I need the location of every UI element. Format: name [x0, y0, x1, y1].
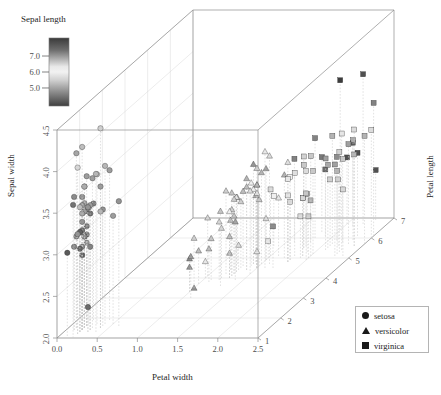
data-point	[373, 168, 378, 173]
data-point	[70, 202, 75, 207]
data-point	[336, 177, 341, 182]
data-point	[308, 154, 313, 159]
x-tick-label: 1.0	[132, 344, 143, 354]
x-axis-title: Petal width	[152, 372, 193, 382]
y-tick-label: 3.5	[41, 209, 51, 220]
data-point	[223, 188, 229, 193]
data-point	[337, 150, 342, 155]
data-point	[350, 138, 355, 143]
data-point	[371, 100, 376, 105]
data-point	[71, 194, 76, 199]
data-point	[268, 187, 273, 192]
data-point	[271, 194, 276, 199]
z-tick-label: 1	[265, 336, 269, 346]
data-point	[340, 187, 345, 192]
data-point	[90, 176, 95, 181]
data-point	[262, 148, 268, 153]
x-tick-label: 0.0	[52, 344, 63, 354]
colorbar-tick-label: 6.0	[29, 67, 40, 77]
data-point	[98, 209, 103, 214]
colorbar-title: Sepal length	[21, 14, 66, 24]
data-point	[266, 239, 271, 244]
data-point	[334, 154, 339, 159]
data-point	[79, 144, 84, 149]
data-point	[191, 235, 197, 240]
data-point	[87, 244, 92, 249]
data-point	[216, 219, 222, 224]
data-point	[217, 208, 223, 213]
data-point	[285, 176, 290, 181]
data-point	[254, 182, 260, 187]
data-point	[352, 127, 357, 132]
x-tick-label: 2.5	[253, 344, 264, 354]
data-point	[65, 250, 70, 255]
data-point	[250, 161, 256, 166]
data-point	[303, 169, 308, 174]
data-point	[79, 219, 84, 224]
colorbar-tick-label: 7.0	[29, 51, 40, 61]
colorbar-tick-label: 5.0	[29, 83, 40, 93]
legend-label-versicolor: versicolor	[375, 326, 409, 336]
data-point	[292, 156, 297, 161]
x-tick-label: 2.0	[212, 344, 223, 354]
z-tick-label: 7	[401, 216, 405, 226]
data-point	[75, 231, 80, 236]
square-marker-icon	[362, 342, 369, 349]
data-point	[263, 165, 269, 170]
data-point	[346, 142, 351, 147]
data-point	[84, 174, 89, 179]
z-tick-label: 2	[288, 316, 292, 326]
legend: setosa versicolor virginica	[355, 306, 429, 353]
circle-marker-icon	[362, 312, 369, 319]
data-point	[85, 304, 90, 309]
data-point	[271, 224, 276, 229]
data-point	[85, 205, 90, 210]
data-point	[332, 162, 337, 167]
data-point	[298, 214, 303, 219]
data-point	[75, 165, 80, 170]
data-point	[304, 191, 309, 196]
data-point	[369, 127, 374, 132]
data-point	[93, 171, 98, 176]
x-tick-label: 0.5	[92, 344, 103, 354]
data-point	[107, 168, 112, 173]
data-point	[306, 214, 311, 219]
data-point	[335, 168, 340, 173]
z-tick-label: 6	[378, 236, 382, 246]
data-point	[82, 184, 87, 189]
data-point	[328, 177, 333, 182]
data-point	[77, 205, 82, 210]
z-axis-title: Petal length	[425, 155, 435, 198]
data-point	[301, 154, 306, 159]
data-point	[98, 184, 103, 189]
data-point	[352, 152, 357, 157]
y-axis-title: Sepal width	[6, 154, 16, 197]
triangle-marker-icon	[362, 327, 370, 334]
data-point	[361, 72, 366, 77]
data-point	[205, 215, 211, 220]
data-point	[285, 159, 291, 164]
colorbar	[49, 38, 69, 106]
y-tick-label: 4.5	[41, 126, 51, 137]
data-point	[362, 133, 367, 138]
data-point	[330, 133, 335, 138]
data-point	[188, 253, 194, 258]
data-point	[98, 126, 103, 131]
y-tick-label: 3.0	[41, 250, 51, 261]
data-point	[339, 131, 344, 136]
data-point	[311, 168, 316, 173]
data-point	[110, 213, 115, 218]
legend-item-setosa: setosa	[362, 309, 428, 322]
y-tick-label: 4.0	[41, 167, 51, 178]
data-point	[340, 156, 345, 161]
legend-item-versicolor: versicolor	[362, 324, 428, 337]
z-tick-label: 4	[333, 276, 338, 286]
legend-label-setosa: setosa	[374, 311, 395, 321]
data-point	[338, 78, 343, 83]
data-point	[292, 170, 297, 175]
data-point	[116, 199, 121, 204]
y-tick-label: 2.0	[41, 334, 51, 345]
data-point	[187, 264, 193, 269]
scatter3d-plot: 0.00.51.01.52.02.52.02.53.03.54.04.51234…	[0, 0, 441, 395]
x-tick-label: 1.5	[172, 344, 183, 354]
